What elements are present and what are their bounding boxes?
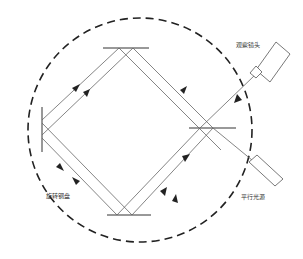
observation-lens-label: 观察镜头 bbox=[236, 40, 260, 49]
light-paths bbox=[42, 48, 258, 215]
parallel-light-source bbox=[249, 155, 283, 186]
rotating-mirror-label: 旋转钢盘 bbox=[46, 191, 70, 200]
optical-diagram bbox=[0, 0, 303, 259]
dashed-boundary-circle bbox=[28, 18, 252, 242]
parallel-light-label: 平行光源 bbox=[241, 192, 265, 201]
